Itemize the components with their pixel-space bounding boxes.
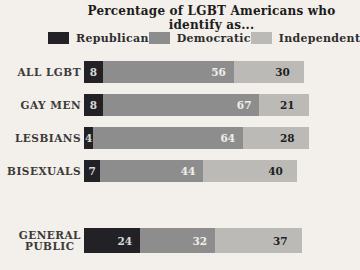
bar-segment-republican: 8	[84, 61, 103, 83]
legend-item: Democratic	[149, 32, 251, 45]
legend-label: Republican	[76, 32, 149, 45]
bar-row: LESBIANS46428	[0, 127, 357, 149]
category-label-text: ALL LGBT	[17, 67, 81, 78]
legend-swatch-icon	[149, 32, 170, 44]
value-label: 21	[280, 99, 295, 111]
bar: 85630	[84, 61, 304, 83]
bar-segment-independent: 37	[215, 228, 302, 253]
chart-title: Percentage of LGBT Americans who identif…	[70, 4, 353, 32]
category-label-text: BISEXUALS	[7, 166, 81, 177]
value-label: 56	[211, 66, 226, 78]
value-label: 64	[220, 132, 235, 144]
bar-segment-independent: 40	[203, 160, 297, 182]
value-label: 32	[192, 235, 207, 247]
bar-row: ALL LGBT85630	[0, 61, 357, 83]
value-label: 8	[90, 99, 97, 111]
bar-segment-independent: 21	[259, 94, 308, 116]
legend-item: Independent	[251, 32, 360, 45]
value-label: 7	[89, 165, 96, 177]
bar-segment-republican: 8	[84, 94, 103, 116]
legend-label: Democratic	[177, 32, 251, 45]
category-label: LESBIANS	[0, 133, 84, 144]
bar: 46428	[84, 127, 309, 149]
bar-segment-republican: 4	[84, 127, 93, 149]
bar-row: GAY MEN86721	[0, 94, 357, 116]
value-label: 8	[90, 66, 97, 78]
bar-segment-democratic: 64	[93, 127, 243, 149]
bar-segment-democratic: 44	[100, 160, 203, 182]
bar-row: GENERAL PUBLIC243237	[0, 228, 357, 253]
legend-swatch-icon	[251, 32, 272, 44]
bar-segment-republican: 7	[84, 160, 100, 182]
value-label: 4	[85, 132, 92, 144]
value-label: 44	[181, 165, 196, 177]
legend: RepublicanDemocraticIndependent	[48, 31, 357, 45]
category-label-text: GAY MEN	[21, 100, 81, 111]
bar-segment-independent: 28	[243, 127, 309, 149]
bar-segment-democratic: 56	[103, 61, 234, 83]
legend-label: Independent	[279, 32, 360, 45]
bar-segment-democratic: 67	[103, 94, 260, 116]
category-label-text: GENERAL PUBLIC	[19, 230, 81, 252]
bar-segment-republican: 24	[84, 228, 140, 253]
value-label: 28	[280, 132, 295, 144]
value-label: 40	[268, 165, 283, 177]
bar-segment-democratic: 32	[140, 228, 215, 253]
bar-segment-independent: 30	[234, 61, 304, 83]
value-label: 30	[275, 66, 290, 78]
value-label: 37	[273, 235, 288, 247]
value-label: 24	[118, 235, 133, 247]
bar: 74440	[84, 160, 297, 182]
category-label: ALL LGBT	[0, 67, 84, 78]
category-label: GENERAL PUBLIC	[0, 230, 84, 252]
value-label: 67	[237, 99, 252, 111]
legend-swatch-icon	[48, 32, 69, 44]
bar: 86721	[84, 94, 309, 116]
bar: 243237	[84, 228, 302, 253]
category-label: BISEXUALS	[0, 166, 84, 177]
legend-item: Republican	[48, 32, 149, 45]
category-label: GAY MEN	[0, 100, 84, 111]
bar-row: BISEXUALS74440	[0, 160, 357, 182]
category-label-text: LESBIANS	[15, 133, 81, 144]
